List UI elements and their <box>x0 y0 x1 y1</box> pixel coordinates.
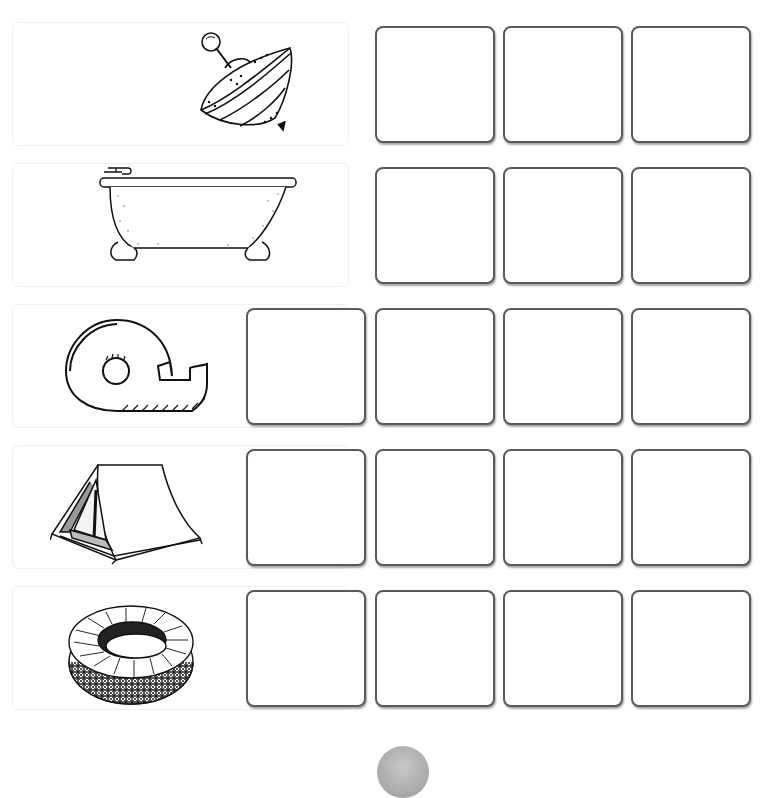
letter-box[interactable] <box>631 167 751 284</box>
letter-box[interactable] <box>503 449 623 566</box>
letter-box[interactable] <box>631 449 751 566</box>
tire-icon <box>66 600 196 708</box>
letter-box[interactable] <box>246 308 366 425</box>
letter-box[interactable] <box>375 167 495 284</box>
spinning-top-icon <box>195 28 295 133</box>
letter-box[interactable] <box>375 590 495 707</box>
letter-box[interactable] <box>246 449 366 566</box>
tape-dispenser-icon <box>62 316 212 416</box>
letter-box[interactable] <box>631 308 751 425</box>
letter-box[interactable] <box>503 590 623 707</box>
letter-box[interactable] <box>631 26 751 143</box>
tent-icon <box>50 460 210 565</box>
letter-box[interactable] <box>503 26 623 143</box>
letter-box[interactable] <box>375 26 495 143</box>
letter-box[interactable] <box>375 308 495 425</box>
page-number-circle <box>377 746 429 798</box>
letter-box[interactable] <box>375 449 495 566</box>
ghost-panel <box>12 22 349 146</box>
letter-box[interactable] <box>246 590 366 707</box>
letter-box[interactable] <box>503 308 623 425</box>
letter-box[interactable] <box>503 167 623 284</box>
bathtub-icon <box>98 166 298 262</box>
letter-box[interactable] <box>631 590 751 707</box>
